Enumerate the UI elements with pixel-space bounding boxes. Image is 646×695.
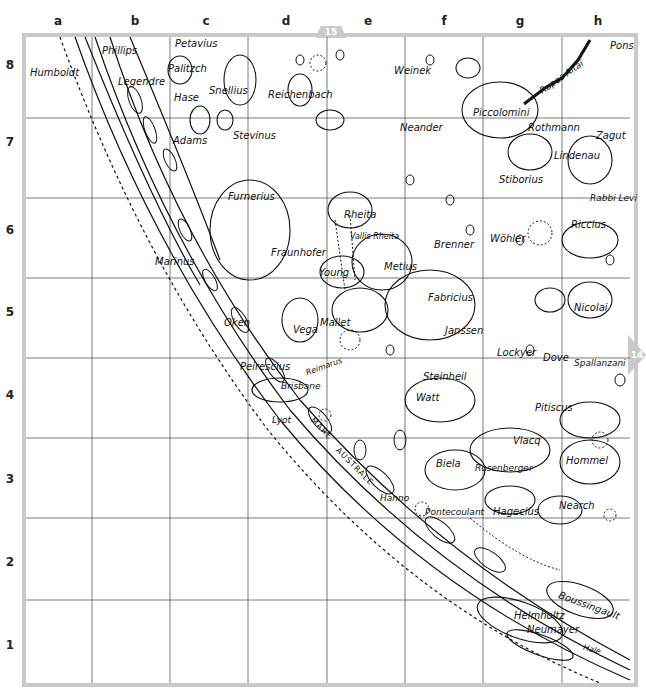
label-hase: Hase bbox=[174, 92, 199, 103]
label-nearch: Nearch bbox=[559, 500, 595, 511]
label-legendre: Legendre bbox=[118, 76, 165, 87]
label-helmholtz: Helmholtz bbox=[514, 610, 565, 621]
label-weinek: Weinek bbox=[394, 65, 431, 76]
label-pons: Pons bbox=[610, 40, 634, 51]
label-stiborius: Stiborius bbox=[499, 174, 543, 185]
label-neumayer: Neumayer bbox=[527, 624, 579, 635]
label-hommel: Hommel bbox=[566, 455, 608, 466]
label-mallet: Mallet bbox=[320, 317, 350, 328]
label-rabbi-levi: Rabbi Levi bbox=[590, 193, 637, 203]
label-hanno: Hanno bbox=[380, 493, 409, 503]
label-vallis-rheita: Vallis Rheita bbox=[350, 232, 399, 241]
label-lockyer: Lockyer bbox=[497, 347, 536, 358]
rupes-altai-scarp bbox=[524, 40, 590, 104]
label-dove: Dove bbox=[543, 352, 569, 363]
label-phillips: Phillips bbox=[102, 45, 137, 56]
label-janssen: Janssen bbox=[445, 325, 483, 336]
label-piccolomini: Piccolomini bbox=[473, 107, 529, 118]
label-fabricius: Fabricius bbox=[428, 292, 473, 303]
label-riccius: Riccius bbox=[571, 219, 606, 230]
label-vlacq: Vlacq bbox=[513, 435, 541, 446]
label-neander: Neander bbox=[400, 122, 443, 133]
label-brisbane: Brisbane bbox=[281, 381, 321, 391]
label-zagut: Zagut bbox=[596, 130, 626, 141]
label-hagecius: Hagecius bbox=[493, 506, 539, 517]
label-adams: Adams bbox=[173, 135, 207, 146]
label-snellius: Snellius bbox=[209, 85, 248, 96]
lunar-map-linework bbox=[0, 0, 646, 695]
label-palitzsch: Palitzch bbox=[168, 63, 207, 74]
label-reichenbach: Reichenbach bbox=[268, 89, 333, 100]
label-nicolai: Nicolai bbox=[574, 302, 608, 313]
label-biela: Biela bbox=[436, 458, 461, 469]
label-rosenberger: Rosenberger bbox=[475, 463, 533, 473]
label-young: Young bbox=[319, 267, 349, 278]
label-humboldt: Humboldt bbox=[30, 67, 79, 78]
label-furnerius: Furnerius bbox=[228, 191, 275, 202]
label-lindenau: Lindenau bbox=[554, 150, 600, 161]
label-petavius: Petavius bbox=[175, 38, 217, 49]
label-spallanzani: Spallanzani bbox=[574, 358, 626, 368]
label-metius: Metius bbox=[384, 261, 417, 272]
label-wohler: Wöhler bbox=[490, 233, 525, 244]
label-rothmann: Rothmann bbox=[528, 122, 580, 133]
label-steinheil: Steinheil bbox=[423, 371, 467, 382]
label-watt: Watt bbox=[416, 392, 439, 403]
label-brenner: Brenner bbox=[434, 239, 474, 250]
label-peirescius: Peirescius bbox=[240, 361, 290, 372]
label-marinus: Marinus bbox=[155, 256, 195, 267]
label-vega: Vega bbox=[293, 324, 318, 335]
label-oken: Oken bbox=[224, 317, 250, 328]
label-pontecoulant: Pontecoulant bbox=[425, 507, 484, 517]
label-fraunhofer: Fraunhofer bbox=[271, 247, 326, 258]
label-lyot: Lyot bbox=[272, 415, 291, 425]
label-stevinus: Stevinus bbox=[233, 130, 276, 141]
label-pitiscus: Pitiscus bbox=[535, 402, 573, 413]
label-rheita: Rheita bbox=[344, 209, 376, 220]
